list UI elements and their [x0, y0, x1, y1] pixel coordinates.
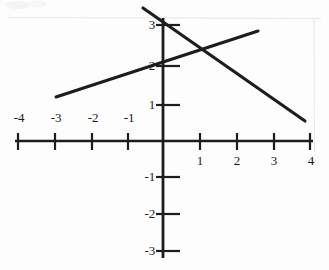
- coordinate-plane: [0, 0, 329, 270]
- y-tick-label--1: -1: [133, 170, 155, 183]
- y-tick-label-1: 1: [141, 98, 155, 111]
- x-tick-label--4: -4: [9, 111, 29, 124]
- x-tick-label-4: 4: [304, 154, 318, 167]
- y-tick-label--2: -2: [133, 207, 155, 220]
- x-tick-label-1: 1: [193, 154, 207, 167]
- x-tick-label--3: -3: [46, 111, 66, 124]
- y-tick-label-2: 2: [141, 59, 155, 72]
- graph-screenshot: -4 -3 -2 -1 1 2 3 4 3 2 1 -1 -2 -3: [0, 0, 329, 270]
- x-tick-label-2: 2: [230, 154, 244, 167]
- y-tick-label-3: 3: [141, 18, 155, 31]
- y-tick-label--3: -3: [133, 244, 155, 257]
- x-tick-label--2: -2: [83, 111, 103, 124]
- axes-group: [15, 18, 313, 258]
- x-tick-label-3: 3: [267, 154, 281, 167]
- rising-line: [56, 31, 258, 97]
- x-tick-label--1: -1: [119, 111, 139, 124]
- plotted-lines-group: [56, 8, 305, 121]
